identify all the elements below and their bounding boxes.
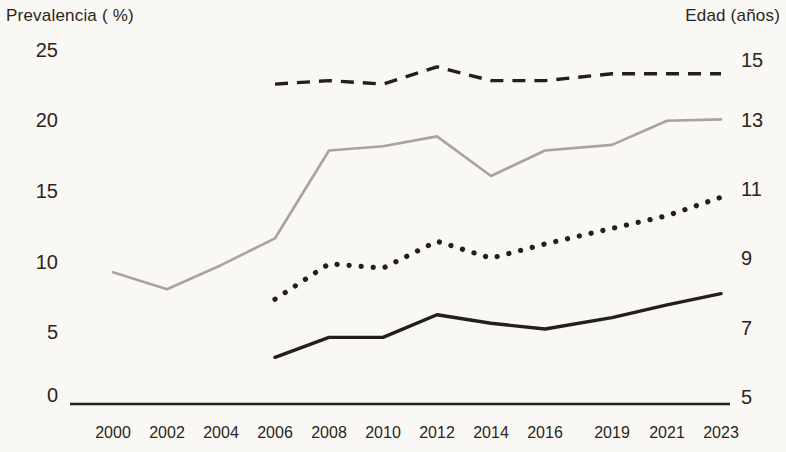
line-serie-negra-continua	[275, 294, 721, 358]
line-serie-gris-continua	[113, 119, 721, 289]
line-serie-negra-punteada	[275, 197, 721, 299]
line-serie-negra-discontinua	[275, 67, 721, 84]
plot-area	[0, 0, 786, 452]
chart-page: Prevalencia ( %) Edad (años) 25 20 15 10…	[0, 0, 786, 452]
